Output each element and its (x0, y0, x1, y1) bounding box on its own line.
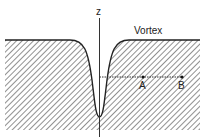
point-b-label: B (178, 80, 185, 91)
point-b-marker (180, 75, 183, 78)
vortex-diagram: z A B Vortex (0, 0, 205, 139)
z-axis-label: z (96, 6, 101, 17)
fluid-region (5, 40, 200, 130)
point-a-marker (141, 75, 144, 78)
point-a-label: A (139, 80, 146, 91)
vortex-label: Vortex (134, 25, 162, 36)
